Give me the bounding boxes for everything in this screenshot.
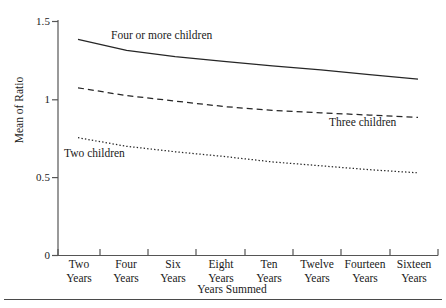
series-annotation-four-or-more-children: Four or more children xyxy=(111,29,212,41)
chart-axes xyxy=(52,20,438,256)
x-tick-label-sixteen-years: Sixteen Years xyxy=(381,258,446,285)
x-axis-ticks xyxy=(58,249,438,256)
y-axis-title: Mean of Ratio xyxy=(13,55,25,165)
footer-rule xyxy=(4,299,442,300)
series-annotation-three-children: Three children xyxy=(329,116,396,128)
x-tick-line2: Years xyxy=(381,272,446,286)
series-annotation-two-children: Two children xyxy=(64,147,125,159)
x-tick-line1: Sixteen xyxy=(381,258,446,272)
y-axis-ticks xyxy=(52,22,58,256)
chart-series-group xyxy=(78,39,418,172)
chart-figure: 1.5 1 0.5 0 Mean of Ratio Two Years Four… xyxy=(0,0,446,308)
series-line-three-children xyxy=(78,88,418,118)
series-line-two-children xyxy=(78,138,418,173)
series-line-four-or-more-children xyxy=(78,39,418,79)
y-tick-label-0.5: 0.5 xyxy=(18,172,50,183)
y-tick-label-1.5: 1.5 xyxy=(18,16,50,27)
x-axis-title: Years Summed xyxy=(166,283,298,295)
